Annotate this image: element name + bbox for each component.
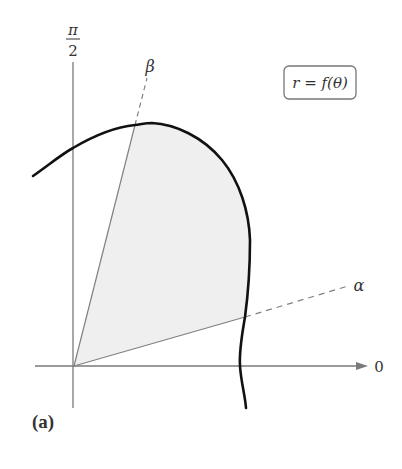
alpha-ray-dashed (245, 286, 348, 317)
alpha-label: α (354, 276, 365, 295)
figure-caption: (a) (32, 411, 54, 433)
arrow-right-icon (356, 362, 368, 370)
shaded-region (74, 123, 250, 366)
beta-ray-dashed (135, 78, 147, 125)
curve-label: r = f(θ) (292, 74, 348, 92)
two-label: 2 (68, 42, 78, 60)
zero-label: 0 (374, 358, 384, 376)
beta-label: β (144, 57, 154, 76)
pi-label: π (67, 21, 79, 39)
polar-diagram: π 2 β α 0 r = f(θ) (0, 0, 402, 469)
